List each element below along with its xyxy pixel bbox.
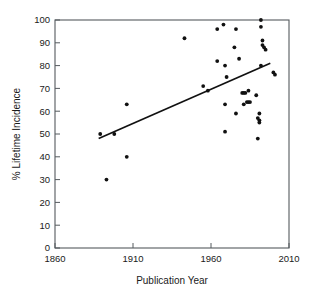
plot-frame: [55, 20, 289, 248]
data-point: [233, 45, 237, 49]
y-tick-label-80: 80: [39, 60, 50, 71]
regression-trend-line: [99, 63, 271, 138]
scatter-plot-svg: 0 10 20 30 40 50 60 70 80 90 100 1860 19…: [0, 0, 312, 299]
data-point: [257, 112, 261, 116]
data-point: [247, 89, 251, 93]
x-tick-label-1960: 1960: [200, 253, 221, 264]
data-point: [242, 102, 246, 106]
data-point: [237, 57, 241, 61]
y-tick-label-30: 30: [39, 174, 50, 185]
data-point: [223, 102, 227, 106]
y-tick-label-70: 70: [39, 83, 50, 94]
y-tick-label-10: 10: [39, 220, 50, 231]
data-point: [215, 27, 219, 31]
data-point: [223, 130, 227, 134]
data-point: [125, 155, 129, 159]
x-axis-ticks: [55, 243, 289, 248]
data-point: [261, 39, 265, 43]
data-point: [98, 132, 102, 136]
data-point: [222, 23, 226, 27]
data-point: [201, 84, 205, 88]
data-point: [257, 121, 261, 125]
y-tick-label-0: 0: [45, 242, 50, 253]
y-tick-labels: 0 10 20 30 40 50 60 70 80 90 100: [34, 14, 50, 253]
x-tick-labels: 1860 1910 1960 2010: [44, 253, 299, 264]
y-axis-title: % Lifetime Incidence: [11, 87, 22, 180]
data-point: [234, 27, 238, 31]
data-point: [259, 25, 263, 29]
y-tick-label-40: 40: [39, 151, 50, 162]
x-tick-label-2010: 2010: [278, 253, 299, 264]
y-axis-ticks: [55, 20, 60, 248]
x-axis-title: Publication Year: [136, 275, 208, 286]
data-point: [264, 48, 268, 52]
data-point: [125, 102, 129, 106]
data-point: [259, 18, 263, 22]
plot-area-border: [55, 20, 289, 248]
data-point: [254, 93, 258, 97]
y-tick-label-50: 50: [39, 128, 50, 139]
y-tick-label-90: 90: [39, 37, 50, 48]
data-point: [248, 100, 252, 104]
chart-figure: 0 10 20 30 40 50 60 70 80 90 100 1860 19…: [0, 0, 312, 299]
x-tick-label-1860: 1860: [44, 253, 65, 264]
data-point: [273, 73, 277, 77]
data-point: [234, 112, 238, 116]
data-point: [105, 178, 109, 182]
data-point: [256, 137, 260, 141]
y-tick-label-100: 100: [34, 14, 50, 25]
y-tick-label-60: 60: [39, 106, 50, 117]
data-point: [243, 91, 247, 95]
data-point: [215, 59, 219, 63]
data-point: [183, 36, 187, 40]
x-tick-label-1910: 1910: [122, 253, 143, 264]
y-tick-label-20: 20: [39, 197, 50, 208]
data-point: [225, 75, 229, 79]
data-point: [223, 64, 227, 68]
